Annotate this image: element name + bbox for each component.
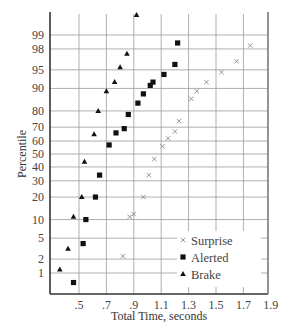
surprise-point — [248, 43, 252, 47]
brake-point — [79, 194, 85, 199]
alerted-legend-icon — [180, 254, 185, 259]
alerted-point — [113, 130, 118, 135]
y-tick-label: 30 — [32, 174, 44, 188]
surprise-point — [127, 215, 131, 219]
alerted-point — [81, 241, 86, 246]
surprise-point — [234, 59, 238, 63]
y-tick-label: 5 — [38, 231, 44, 245]
alerted-point — [93, 194, 98, 199]
brake-point — [104, 88, 110, 93]
y-tick-label: 2 — [38, 252, 44, 266]
y-tick-label: 95 — [32, 63, 44, 77]
surprise-point — [173, 129, 177, 133]
alerted-point — [175, 40, 180, 45]
brake-point — [65, 246, 71, 251]
surprise-point — [195, 89, 199, 93]
x-tick-label: .5 — [75, 298, 84, 312]
x-tick-label: 1.9 — [263, 298, 278, 312]
surprise-point — [177, 119, 181, 123]
y-tick-label: 60 — [32, 134, 44, 148]
surprise-point — [121, 254, 125, 258]
alerted-point — [107, 142, 112, 147]
y-tick-label: 99 — [32, 28, 44, 42]
brake-point — [124, 51, 130, 56]
brake-point — [112, 79, 118, 84]
y-tick-label: 20 — [32, 190, 44, 204]
surprise-point — [152, 157, 156, 161]
brake-point — [117, 64, 123, 69]
surprise-point — [147, 173, 151, 177]
y-tick-label: 98 — [32, 42, 44, 56]
x-axis-title: Total Time, seconds — [111, 309, 207, 323]
percentile-scatter-chart: .5.7.91.11.31.51.71.9 125102030405060708… — [0, 0, 288, 328]
y-tick-label: 1 — [38, 266, 44, 280]
brake-point — [82, 159, 88, 164]
alerted-point — [71, 280, 76, 285]
brake-point — [134, 12, 140, 17]
y-tick-label: 90 — [32, 81, 44, 95]
legend-label-surprise: Surprise — [191, 234, 233, 248]
surprise-point — [219, 70, 223, 74]
x-tick-label: .7 — [102, 298, 111, 312]
x-tick-label: 1.5 — [209, 298, 224, 312]
alerted-point — [141, 91, 146, 96]
alerted-point — [150, 80, 155, 85]
brake-point — [71, 214, 77, 219]
alerted-point — [122, 126, 127, 131]
surprise-point — [204, 80, 208, 84]
surprise-point — [189, 97, 193, 101]
y-tick-labels: 125102030405060708090959899 — [32, 28, 44, 280]
alerted-point — [172, 62, 177, 67]
y-tick-label: 10 — [32, 213, 44, 227]
alerted-point — [135, 101, 140, 106]
y-tick-label: 40 — [32, 160, 44, 174]
y-axis-title: Percentile — [15, 130, 29, 178]
y-tick-label: 70 — [32, 120, 44, 134]
surprise-point — [166, 136, 170, 140]
legend-label-alerted: Alerted — [191, 251, 229, 265]
alerted-point — [97, 173, 102, 178]
legend-label-brake: Brake — [191, 268, 221, 282]
brake-point — [95, 108, 101, 113]
alerted-point — [83, 217, 88, 222]
brake-point — [91, 131, 97, 136]
y-tick-label: 50 — [32, 147, 44, 161]
alerted-point — [161, 72, 166, 77]
alerted-point — [126, 112, 131, 117]
brake-point — [57, 266, 63, 271]
x-tick-label: 1.7 — [236, 298, 251, 312]
y-tick-label: 80 — [32, 104, 44, 118]
